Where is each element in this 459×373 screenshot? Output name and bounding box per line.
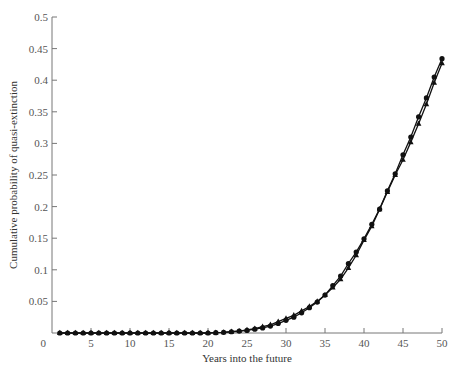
series-circles xyxy=(57,56,444,335)
series-line xyxy=(60,59,442,333)
chart-canvas: 00.050.10.150.20.250.30.350.40.450.55101… xyxy=(0,0,459,373)
y-tick-label: 0.35 xyxy=(29,106,49,118)
series-line xyxy=(60,63,442,333)
x-tick-label: 45 xyxy=(398,337,410,349)
axes: 00.050.10.150.20.250.30.350.40.450.55101… xyxy=(29,11,448,349)
x-tick-label: 10 xyxy=(125,337,137,349)
x-axis-title: Years into the future xyxy=(202,352,292,364)
y-axis-title: Cumulative probability of quasi-extincti… xyxy=(7,81,19,269)
x-tick-label: 25 xyxy=(242,337,254,349)
x-tick-label: 35 xyxy=(320,337,332,349)
y-tick-label: 0.05 xyxy=(29,295,49,307)
x-tick-label: 50 xyxy=(437,337,449,349)
x-tick-label: 15 xyxy=(164,337,176,349)
x-tick-label: 20 xyxy=(203,337,215,349)
x-tick-label: 30 xyxy=(281,337,293,349)
y-tick-label: 0.45 xyxy=(29,43,49,55)
plot-series xyxy=(57,56,445,335)
series-triangles xyxy=(57,60,445,335)
y-tick-label: 0 xyxy=(41,337,47,349)
y-tick-label: 0.25 xyxy=(29,169,49,181)
y-tick-label: 0.15 xyxy=(29,232,49,244)
x-tick-label: 40 xyxy=(359,337,371,349)
y-tick-label: 0.2 xyxy=(34,201,48,213)
y-tick-label: 0.1 xyxy=(34,264,48,276)
y-tick-label: 0.3 xyxy=(34,137,48,149)
y-tick-label: 0.5 xyxy=(34,11,48,23)
y-tick-label: 0.4 xyxy=(34,74,48,86)
x-tick-label: 5 xyxy=(88,337,94,349)
